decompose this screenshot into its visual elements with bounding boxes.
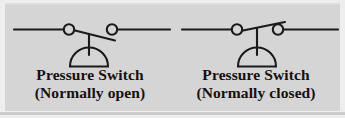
left-contact-circle [64, 24, 74, 34]
right-contact-circle [273, 24, 283, 34]
figure-bottom-edge [0, 112, 345, 115]
caption-normally-open-line2: (Normally open) [6, 84, 174, 102]
caption-normally-open: Pressure Switch (Normally open) [6, 66, 174, 102]
caption-normally-closed-line2: (Normally closed) [172, 84, 340, 102]
pressure-switch-normally-open-symbol [8, 10, 178, 70]
pressure-switch-normally-closed-symbol [178, 10, 343, 70]
caption-normally-open-line1: Pressure Switch [36, 66, 143, 83]
left-contact-circle [232, 24, 242, 34]
figure-top-edge [5, 3, 340, 5]
caption-normally-closed: Pressure Switch (Normally closed) [172, 66, 340, 102]
switch-lever-closed [243, 22, 285, 31]
right-contact-circle [107, 24, 117, 34]
caption-normally-closed-line1: Pressure Switch [202, 66, 309, 83]
pressure-switch-figure: Pressure Switch (Normally open) Pressure… [0, 0, 345, 118]
